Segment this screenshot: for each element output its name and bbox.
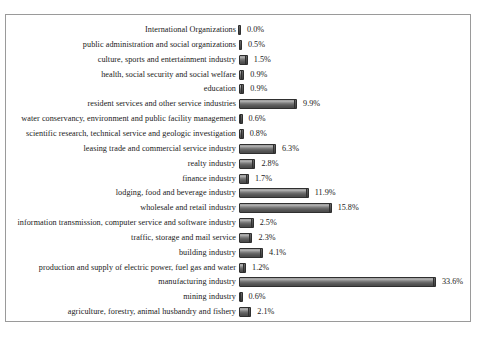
bar-container: 0.0% [239,25,264,35]
category-label: resident services and other service indu… [88,99,237,109]
value-label: 0.0% [247,25,264,35]
plot-area: International Organizations0.0%public ad… [6,15,470,321]
bar [239,292,243,302]
bar-row: wholesale and retail industry15.8% [6,200,470,216]
category-label: wholesale and retail industry [140,203,236,213]
bar-row: building industry4.1% [6,245,470,261]
category-label: agriculture, forestry, animal husbandry … [68,307,236,317]
bar-container: 1.7% [239,174,272,184]
bar-row: resident services and other service indu… [6,96,470,112]
bar-container: 0.8% [239,129,267,139]
bar-row: health, social security and social welfa… [6,67,470,83]
bar-container: 2.5% [239,218,277,228]
value-label: 0.9% [250,84,267,94]
bar-container: 33.6% [239,277,463,287]
bar-row: realty industry2.8% [6,156,470,172]
bar [239,84,244,94]
bar-row: water conservancy, environment and publi… [6,111,470,127]
bar-container: 2.8% [239,159,278,169]
category-label: mining industry [183,292,236,302]
bar [239,203,332,213]
bar-container: 2.3% [239,233,276,243]
bar-row: culture, sports and entertainment indust… [6,52,470,68]
category-label: water conservancy, environment and publi… [21,114,236,124]
bar [239,233,252,243]
bar-container: 6.3% [239,144,299,154]
value-label: 2.5% [260,218,277,228]
category-label: traffic, storage and mail service [131,233,236,243]
category-label: scientific research, technical service a… [26,129,236,139]
bar-row: information transmission, computer servi… [6,215,470,231]
bar [239,218,254,228]
bar [239,40,242,50]
bar-container: 15.8% [239,203,359,213]
bar-row: agriculture, forestry, animal husbandry … [6,304,470,320]
category-label: finance industry [182,174,236,184]
category-label: building industry [179,248,236,258]
bar-row: lodging, food and beverage industry11.9% [6,185,470,201]
bar-row: scientific research, technical service a… [6,126,470,142]
category-label: culture, sports and entertainment indust… [98,55,236,65]
value-label: 1.2% [252,263,269,273]
value-label: 2.3% [258,233,275,243]
bar-container: 1.5% [239,55,271,65]
category-label: realty industry [188,159,236,169]
bar-row: International Organizations0.0% [6,22,470,38]
bar-row: manufacturing industry33.6% [6,274,470,290]
bar-container: 4.1% [239,248,286,258]
value-label: 2.1% [257,307,274,317]
value-label: 4.1% [269,248,286,258]
bar [239,307,251,317]
category-label: information transmission, computer servi… [17,218,236,228]
bar [239,70,244,80]
bar [239,129,244,139]
bar-container: 9.9% [239,99,320,109]
category-label: production and supply of electric power,… [39,263,236,273]
value-label: 9.9% [303,99,320,109]
bar [239,25,241,35]
bar-container: 0.9% [239,84,267,94]
bar-container: 2.1% [239,307,274,317]
value-label: 1.7% [255,174,272,184]
bar-container: 1.2% [239,263,269,273]
category-label: International Organizations [145,25,236,35]
bar-row: traffic, storage and mail service2.3% [6,230,470,246]
value-label: 0.6% [249,114,266,124]
bar [239,277,436,287]
bar-container: 0.6% [239,292,266,302]
bar-container: 0.5% [239,40,265,50]
bar [239,55,248,65]
bar-row: mining industry0.6% [6,289,470,305]
value-label: 33.6% [442,277,463,287]
bar [239,174,249,184]
category-label: lodging, food and beverage industry [116,188,236,198]
value-label: 11.9% [315,188,336,198]
bar-row: education0.9% [6,81,470,97]
chart-frame: International Organizations0.0%public ad… [5,14,471,322]
value-label: 0.5% [248,40,265,50]
bar-container: 11.9% [239,188,336,198]
value-label: 15.8% [338,203,359,213]
category-label: health, social security and social welfa… [101,70,236,80]
value-label: 1.5% [254,55,271,65]
value-label: 0.6% [249,292,266,302]
bar-row: production and supply of electric power,… [6,260,470,276]
category-label: public administration and social organiz… [83,40,236,50]
bar [239,188,309,198]
bar [239,114,243,124]
bar [239,99,297,109]
value-label: 2.8% [261,159,278,169]
bar [239,248,263,258]
value-label: 0.9% [250,70,267,80]
category-label: leasing trade and commercial service ind… [83,144,236,154]
bar [239,159,255,169]
bar [239,144,276,154]
bar-row: leasing trade and commercial service ind… [6,141,470,157]
bar-container: 0.9% [239,70,267,80]
bar-container: 0.6% [239,114,266,124]
bar-row: public administration and social organiz… [6,37,470,53]
category-label: education [204,84,236,94]
bar [239,263,246,273]
bar-row: finance industry1.7% [6,171,470,187]
value-label: 6.3% [282,144,299,154]
